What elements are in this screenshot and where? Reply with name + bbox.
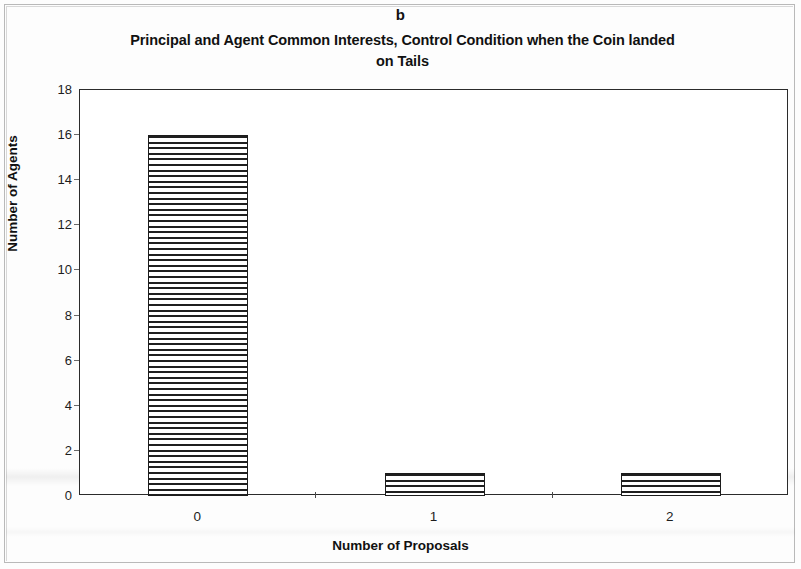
y-axis-tick-mark (74, 269, 79, 270)
y-axis-tick-label: 10 (0, 262, 72, 277)
y-axis-tick-mark (74, 134, 79, 135)
chart-title: Principal and Agent Common Interests, Co… (90, 30, 715, 72)
y-axis-tick-label: 6 (0, 352, 72, 367)
y-axis-tick-label: 4 (0, 397, 72, 412)
x-axis-tick-label: 0 (193, 509, 201, 524)
plot-area (79, 89, 788, 495)
x-axis-title: Number of Proposals (0, 538, 801, 553)
bar-2 (621, 473, 721, 496)
bar-0 (148, 135, 248, 496)
bar-1 (385, 473, 485, 496)
x-axis-tick-label: 2 (666, 509, 674, 524)
y-axis-tick-mark (74, 315, 79, 316)
chart-title-line-1: Principal and Agent Common Interests, Co… (90, 30, 715, 51)
panel-label: b (0, 6, 801, 23)
y-axis-tick-mark (74, 224, 79, 225)
chart-title-line-2: on Tails (90, 51, 715, 72)
y-axis-tick-label: 18 (0, 82, 72, 97)
y-axis-tick-label: 0 (0, 488, 72, 503)
y-axis-tick-label: 2 (0, 442, 72, 457)
figure-page: b Principal and Agent Common Interests, … (0, 0, 801, 569)
x-axis-tick-mark (552, 492, 553, 498)
y-axis-tick-label: 16 (0, 127, 72, 142)
x-axis-tick-mark (315, 492, 316, 498)
scan-artifact-band-lower (6, 527, 795, 537)
y-axis-tick-mark (74, 450, 79, 451)
y-axis-tick-label: 8 (0, 307, 72, 322)
y-axis-tick-mark (74, 405, 79, 406)
plot-inner (80, 90, 787, 494)
y-axis-tick-mark (74, 179, 79, 180)
y-axis-tick-mark (74, 360, 79, 361)
y-axis-tick-label: 14 (0, 172, 72, 187)
x-axis-tick-label: 1 (430, 509, 438, 524)
y-axis-tick-label: 12 (0, 217, 72, 232)
